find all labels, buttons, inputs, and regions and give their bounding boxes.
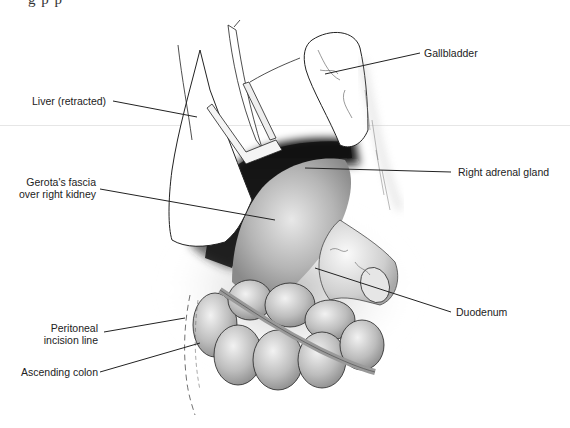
label-liver: Liver (retracted)	[32, 95, 106, 107]
label-gerota-line2: over right kidney	[14, 188, 96, 200]
label-peritoneal: Peritoneal incision line	[20, 322, 98, 346]
label-adrenal: Right adrenal gland	[458, 166, 549, 178]
label-gerota: Gerota's fascia over right kidney	[14, 176, 96, 200]
label-gallbladder: Gallbladder	[424, 47, 478, 59]
label-duodenum: Duodenum	[456, 306, 507, 318]
label-ascending-colon: Ascending colon	[21, 366, 98, 378]
label-peritoneal-line2: incision line	[20, 334, 98, 346]
anatomy-illustration: g p p	[0, 0, 570, 428]
label-gerota-line1: Gerota's fascia	[14, 176, 96, 188]
drawing	[0, 0, 570, 428]
label-peritoneal-line1: Peritoneal	[20, 322, 98, 334]
